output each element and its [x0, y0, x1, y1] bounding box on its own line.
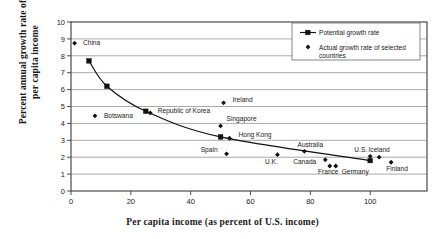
country-label: U.S.	[354, 146, 367, 153]
legend-square-marker	[306, 30, 311, 35]
y-axis-tick-label: 2	[61, 153, 65, 162]
country-label: U.K.	[265, 158, 278, 165]
country-label: Germany	[342, 168, 370, 176]
country-label: Australia	[297, 141, 323, 148]
potential-growth-marker	[143, 109, 148, 114]
x-axis-tick-label: 100	[364, 197, 377, 206]
chart-plot-area: 012345678910020406080100ChinaBotswanaRep…	[0, 0, 445, 239]
country-label: Ireland	[233, 96, 253, 103]
y-axis-tick-label: 1	[61, 170, 65, 179]
x-axis-tick-label: 80	[306, 197, 314, 206]
country-label: France	[318, 168, 339, 175]
country-label: Finland	[386, 165, 408, 172]
potential-growth-marker	[218, 135, 223, 140]
country-label: Botswana	[104, 112, 133, 119]
country-label: Singapore	[227, 115, 257, 123]
legend-label-actual-line2: countries	[319, 52, 346, 59]
country-label: Hong Kong	[239, 131, 272, 139]
x-axis-title: Per capita income (as percent of U.S. in…	[0, 217, 445, 227]
y-axis-tick-label: 6	[61, 85, 65, 94]
country-label: China	[83, 39, 101, 46]
x-axis-tick-label: 20	[127, 197, 135, 206]
country-label: Spain	[201, 146, 218, 154]
x-axis-tick-label: 60	[246, 197, 254, 206]
y-axis-tick-label: 3	[61, 136, 65, 145]
y-axis-tick-label: 8	[61, 52, 65, 61]
country-label: Republic of Korea	[158, 107, 211, 115]
y-axis-tick-label: 5	[61, 102, 65, 111]
legend-label-actual: Actual growth rate of selected	[319, 44, 406, 52]
y-axis-tick-label: 7	[61, 68, 65, 77]
x-axis-tick-label: 40	[186, 197, 194, 206]
x-axis-tick-label: 0	[69, 197, 73, 206]
potential-growth-marker	[368, 158, 373, 163]
potential-growth-marker	[87, 59, 92, 64]
y-axis-tick-label: 0	[61, 187, 65, 196]
y-axis-tick-label: 9	[61, 35, 65, 44]
y-axis-tick-label: 4	[61, 119, 65, 128]
country-label: Iceland	[369, 146, 391, 153]
y-axis-tick-label: 10	[57, 18, 65, 27]
potential-growth-marker	[105, 84, 110, 89]
country-label: Canada	[293, 158, 316, 165]
chart-figure: Percent annual growth rate of per capita…	[0, 0, 445, 239]
legend-label-potential: Potential growth rate	[319, 29, 380, 37]
